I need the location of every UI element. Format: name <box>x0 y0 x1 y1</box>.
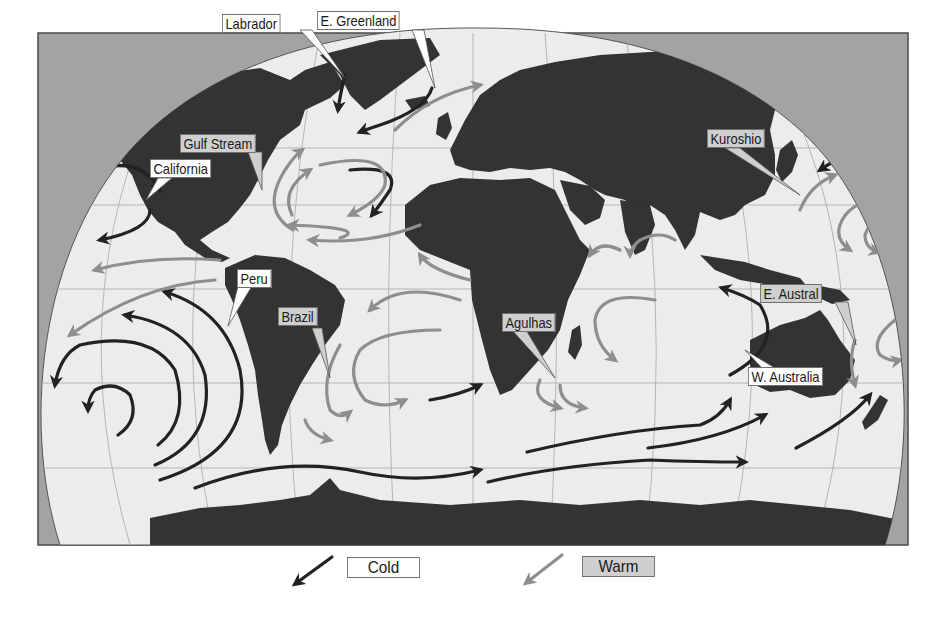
label-brazil: Brazil <box>278 307 317 326</box>
label-e-greenland: E. Greenland <box>317 11 400 30</box>
label-kuroshio: Kuroshio <box>707 129 765 148</box>
label-peru: Peru <box>237 269 271 288</box>
label-labrador: Labrador <box>222 14 281 33</box>
ocean-currents-map <box>0 0 941 617</box>
label-e-austral: E. Austral <box>760 284 822 303</box>
legend-cold-arrow <box>295 557 332 584</box>
legend-warm-arrow <box>526 555 562 583</box>
label-california: California <box>150 159 211 178</box>
legend-arrows <box>295 555 562 584</box>
label-agulhas: Agulhas <box>502 313 556 332</box>
label-gulf-stream: Gulf Stream <box>180 134 256 153</box>
legend-warm-label: Warm <box>582 556 655 577</box>
label-w-australia: W. Australia <box>748 367 823 386</box>
legend-cold-label: Cold <box>347 557 420 578</box>
